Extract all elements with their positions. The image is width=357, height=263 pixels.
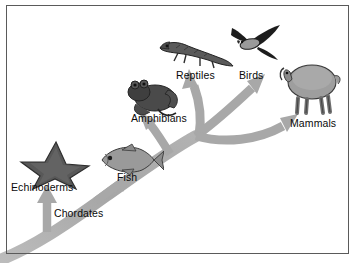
bird-icon xyxy=(226,22,282,62)
lizard-icon xyxy=(156,36,234,70)
label-birds: Birds xyxy=(239,70,263,81)
label-fish: Fish xyxy=(117,172,137,183)
label-reptiles: Reptiles xyxy=(176,70,215,81)
label-mammals: Mammals xyxy=(290,118,336,129)
branch-birds-arrow xyxy=(196,88,252,136)
evolution-tree-figure: Echinoderms Chordates Fish Amphibians Re… xyxy=(0,0,357,263)
label-echinoderms: Echinoderms xyxy=(11,182,73,193)
label-chordates: Chordates xyxy=(54,208,103,219)
sheep-icon xyxy=(274,58,344,116)
label-amphibians: Amphibians xyxy=(131,113,187,124)
